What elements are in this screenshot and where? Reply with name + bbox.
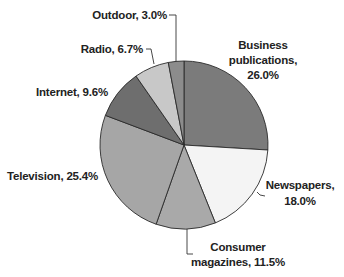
label-business-line2: publications, bbox=[229, 54, 297, 66]
radio-leader-line bbox=[146, 49, 154, 64]
label-outdoor: Outdoor, 3.0% bbox=[92, 9, 167, 21]
label-radio: Radio, 6.7% bbox=[81, 43, 143, 55]
label-newspapers-line2: 18.0% bbox=[284, 195, 316, 207]
consumer-leader-line bbox=[187, 229, 193, 254]
pie-chart: Outdoor, 3.0% Radio, 6.7% Business publi… bbox=[0, 0, 344, 277]
newspapers-leader-line bbox=[257, 192, 265, 196]
label-consumer-line1: Consumer bbox=[210, 241, 266, 253]
label-consumer-line2: magazines, 11.5% bbox=[191, 256, 285, 268]
pie-slices bbox=[100, 61, 268, 229]
outdoor-leader-line bbox=[169, 15, 176, 62]
label-internet: Internet, 9.6% bbox=[36, 86, 108, 98]
label-newspapers-line1: Newspapers, bbox=[266, 179, 335, 191]
label-television: Television, 25.4% bbox=[7, 170, 98, 182]
label-business-line1: Business bbox=[238, 39, 288, 51]
label-business-line3: 26.0% bbox=[247, 69, 279, 81]
